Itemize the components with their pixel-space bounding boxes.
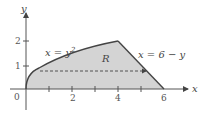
origin-label: 0 [14,92,20,102]
region-diagram: y x 0 2 4 6 1 2 x = y2 x = 6 − y R [0,0,205,116]
x-tick-4: 4 [115,93,121,103]
x-tick-2: 2 [70,93,76,103]
curve-right-label: x = 6 − y [138,49,185,60]
x-tick-6: 6 [161,93,167,103]
x-axis-label: x [192,83,198,94]
y-axis-label: y [20,3,27,14]
y-tick-2: 2 [15,36,21,46]
y-tick-1: 1 [15,61,21,71]
region-label: R [101,53,110,64]
